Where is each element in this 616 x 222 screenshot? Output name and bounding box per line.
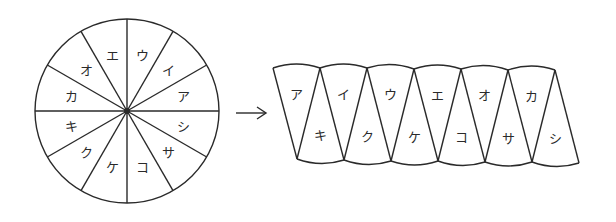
sector-label: ケ: [106, 160, 119, 175]
strip-bottom-label: コ: [455, 130, 468, 145]
sector-radius-line: [461, 69, 485, 162]
strip-bottom-label: ケ: [408, 130, 421, 145]
sector-radius-line: [532, 70, 555, 162]
strip-bottom-label: ク: [361, 129, 374, 144]
sector-arc-bottom: [297, 159, 344, 164]
strip-bottom-label: キ: [314, 128, 327, 143]
sector-radius-line: [297, 68, 320, 159]
sector-arc-bottom: [391, 161, 438, 165]
sector-radius-line: [367, 68, 391, 161]
strip-top-label: ウ: [384, 87, 397, 102]
sector-radius-line: [438, 69, 461, 161]
rearranged-sector-strip: アイウエオカキクケコサシ: [273, 64, 579, 167]
sector-arc-top: [367, 64, 414, 69]
sector-radius-line: [485, 70, 508, 162]
sector-arc-bottom: [438, 161, 485, 166]
sector-arc-top: [461, 65, 508, 70]
sector-radius-line: [391, 69, 414, 161]
sector-label: キ: [65, 119, 78, 134]
sector-radius-line: [414, 69, 438, 161]
sector-radius-line: [508, 70, 532, 162]
sector-radius-line: [555, 70, 579, 163]
sector-label: サ: [162, 145, 175, 160]
sector-arc-top: [414, 65, 461, 69]
sector-arc-bottom: [532, 162, 579, 167]
sector-arc-top: [508, 66, 555, 70]
strip-top-label: カ: [525, 89, 538, 104]
strip-bottom-label: サ: [502, 131, 515, 146]
strip-top-label: エ: [431, 88, 444, 103]
sector-radius-line: [344, 68, 367, 160]
strip-top-label: ア: [290, 87, 303, 102]
strip-top-label: イ: [337, 87, 350, 102]
sector-label: カ: [65, 89, 78, 104]
sector-label: ア: [177, 89, 190, 104]
right-arrow-icon: [236, 107, 266, 119]
sector-rearrangement-diagram: ウイアシサコケクキカオエ アイウエオカキクケコサシ: [0, 0, 616, 222]
sector-arc-bottom: [344, 160, 391, 165]
sector-radius-line: [320, 68, 344, 160]
sector-radius-line: [273, 68, 297, 159]
sector-label: ウ: [136, 48, 149, 63]
sector-arc-top: [320, 64, 367, 68]
sector-label: コ: [136, 160, 149, 175]
strip-bottom-label: シ: [549, 131, 562, 146]
divided-circle: ウイアシサコケクキカオエ: [35, 19, 219, 203]
strip-top-label: オ: [478, 88, 491, 103]
sector-arc-top: [273, 64, 320, 68]
sector-label: オ: [80, 63, 93, 78]
sector-label: シ: [177, 119, 190, 134]
sector-label: イ: [162, 63, 175, 78]
sector-arc-bottom: [485, 162, 532, 166]
sector-label: ク: [80, 145, 93, 160]
sector-label: エ: [106, 48, 119, 63]
center-point: [124, 108, 130, 114]
